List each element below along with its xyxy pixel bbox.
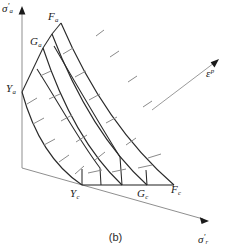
epsilon-p-vector-line xyxy=(152,63,214,110)
tick-mark xyxy=(126,138,136,145)
axis-label-sigma-a: σ'a xyxy=(2,2,13,15)
radial-divider-mid-fa xyxy=(52,23,61,34)
surface-label-fa: Fa xyxy=(48,11,58,24)
radial-divider-ga-mid xyxy=(43,34,52,48)
surface-label-yc: Yc xyxy=(70,188,79,201)
tick-mark xyxy=(143,101,152,107)
surface-label-gc: Gc xyxy=(137,188,148,201)
tick-mark xyxy=(112,169,126,172)
failure-surface-arc xyxy=(61,23,174,185)
figure-caption: (b) xyxy=(0,231,231,243)
tick-mark xyxy=(75,166,84,174)
tick-mark xyxy=(148,154,161,158)
tick-mark xyxy=(33,118,44,124)
tick-mark xyxy=(138,165,152,168)
surface-label-fc: Fc xyxy=(171,184,181,197)
surface-label-ga: Ga xyxy=(30,36,42,49)
axis-label-epsilon-p: εp xyxy=(206,68,214,79)
surface-arc-group xyxy=(22,23,174,185)
tick-mark xyxy=(128,76,137,82)
sigma-r-arrow-icon xyxy=(200,217,209,224)
tick-mark xyxy=(63,48,73,54)
radial-divider-ya-ga xyxy=(22,48,43,92)
radial-divider-1 xyxy=(37,69,101,185)
tick-mark xyxy=(44,139,55,145)
radial-divider-group xyxy=(22,23,174,185)
tick-mark xyxy=(27,98,37,104)
tick-mark xyxy=(75,71,86,77)
tick-mark xyxy=(96,30,104,36)
surface-label-ya: Ya xyxy=(6,83,16,96)
tick-mark xyxy=(40,71,51,76)
radial-divider-3-stub xyxy=(146,170,147,185)
tick-mark xyxy=(110,51,119,57)
sigma-a-arrow-icon xyxy=(19,6,26,15)
tick-mark xyxy=(61,115,72,121)
tick-mark xyxy=(59,155,69,162)
intermediate-surface-arc xyxy=(52,34,147,185)
tick-mark xyxy=(89,94,100,100)
yield-surface-figure: σ'a σ'r εp Fa Ga Ya Yc Gc Fc (b) xyxy=(0,0,231,252)
